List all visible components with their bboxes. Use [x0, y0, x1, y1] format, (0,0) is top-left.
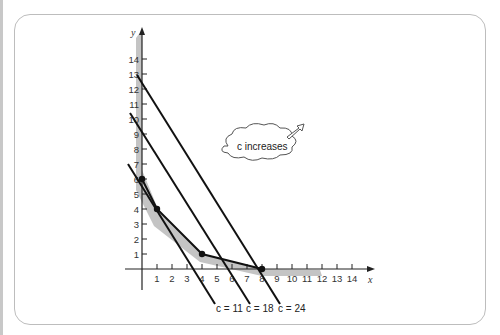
svg-text:14: 14: [347, 273, 358, 284]
svg-text:13: 13: [128, 69, 139, 80]
svg-text:1: 1: [134, 249, 139, 260]
svg-text:9: 9: [274, 273, 279, 284]
svg-text:1: 1: [154, 273, 159, 284]
chart: 1 2 3 4 5 6 7 8 9 10 11 12 13 14 x 1 2 3…: [0, 0, 500, 335]
svg-text:11: 11: [302, 273, 312, 284]
svg-text:12: 12: [317, 273, 328, 284]
svg-text:4: 4: [134, 204, 139, 215]
svg-text:12: 12: [128, 84, 139, 95]
label-c11: c = 11: [216, 303, 243, 314]
svg-text:10: 10: [287, 273, 298, 284]
objective-line-c24: [137, 75, 280, 304]
svg-text:7: 7: [244, 273, 249, 284]
svg-text:8: 8: [134, 144, 139, 155]
svg-text:3: 3: [134, 219, 139, 230]
callout-text: c increases: [237, 141, 288, 152]
label-c18: c = 18: [246, 303, 274, 314]
y-axis-arrow-icon: [139, 27, 145, 35]
svg-text:13: 13: [332, 273, 343, 284]
x-tick-labels: 1 2 3 4 5 6 7 8 9 10 11 12 13 14: [154, 273, 357, 284]
svg-text:3: 3: [184, 273, 189, 284]
point-0-6: [139, 176, 145, 182]
x-axis-label: x: [367, 274, 373, 285]
svg-text:9: 9: [134, 129, 139, 140]
label-c24: c = 24: [278, 303, 306, 314]
callout-cloud: c increases: [222, 124, 304, 161]
point-8-0: [259, 266, 265, 272]
point-4-1: [199, 251, 205, 257]
y-axis-label: y: [130, 27, 136, 38]
svg-text:14: 14: [128, 54, 139, 65]
svg-text:5: 5: [214, 273, 219, 284]
point-1-4: [154, 206, 160, 212]
svg-text:2: 2: [169, 273, 174, 284]
svg-text:7: 7: [134, 159, 139, 170]
svg-text:5: 5: [134, 189, 139, 200]
x-axis-arrow-icon: [367, 266, 375, 272]
svg-text:2: 2: [134, 234, 139, 245]
svg-text:11: 11: [129, 99, 139, 110]
